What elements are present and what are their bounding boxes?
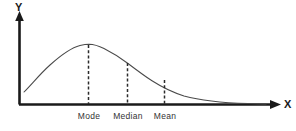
- tick-label-mode: Mode: [78, 112, 100, 121]
- tick-label-median: Median: [113, 112, 143, 121]
- distribution-curve: [24, 44, 266, 104]
- x-axis-arrowhead: [270, 100, 281, 109]
- x-axis-label: X: [284, 99, 291, 110]
- distribution-chart: Y X Mode Median Mean: [0, 0, 296, 131]
- chart-canvas: [0, 0, 296, 131]
- y-axis-label: Y: [15, 2, 22, 13]
- tick-label-mean: Mean: [154, 112, 176, 121]
